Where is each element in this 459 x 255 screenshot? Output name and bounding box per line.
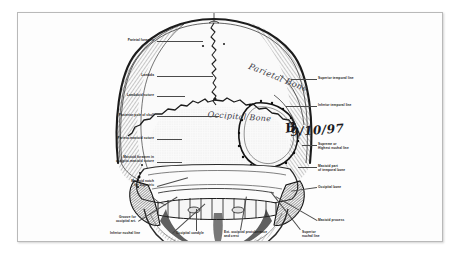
leader-supreme-nuchal-line — [302, 145, 317, 146]
leader-posterior-pole — [157, 116, 219, 117]
label-ext-occipital-protuberance: Ext. occipital protuberance and crest — [224, 231, 302, 239]
label-mastoid-notch: Mastoid notch for Digastric — [70, 180, 154, 188]
skull-illustration — [18, 13, 442, 241]
leader-lambda — [157, 76, 213, 77]
screenshot-root: Parietal Bone Occipital Bone B 9/10/97 P… — [0, 0, 459, 255]
leader-mastoid-foramen — [157, 162, 182, 163]
scanned-plate-frame: Parietal Bone Occipital Bone B 9/10/97 P… — [17, 12, 443, 242]
label-occipital-condyle: Occipital condyle — [176, 232, 224, 236]
label-parieto-mastoid-suture: Parieto-mastoid suture — [74, 137, 154, 141]
label-mastoid-foramen: Mastoid foramen in occipito-mastoid sutu… — [66, 156, 154, 164]
leader-superior-temporal-line — [291, 79, 317, 80]
label-inferior-temporal-line: Inferior temporal line — [318, 104, 396, 108]
label-mastoid-part-temporal: Mastoid part of temporal bone — [318, 165, 396, 173]
label-lambdoid-suture: Lambdoid suture — [82, 94, 154, 98]
skull-drawing-svg — [18, 13, 442, 241]
leader-mastoid-part-temporal — [298, 167, 317, 168]
leader-lambdoid-suture — [157, 96, 185, 97]
leader-inferior-temporal-line — [286, 106, 317, 107]
label-posterior-pole: Posterior pole of skull — [76, 114, 154, 118]
leader-occipital-condyle — [196, 209, 197, 231]
label-parietal-foramen: Parietal foramen — [90, 39, 154, 43]
leader-parieto-mastoid-suture — [157, 139, 182, 140]
label-occipital-bone: Occipital bone — [318, 186, 396, 190]
label-superior-temporal-line: Superior temporal line — [318, 77, 396, 81]
label-mastoid-process: Mastoid process — [318, 219, 396, 223]
leader-parietal-foramen — [157, 41, 203, 42]
label-lambda: Lambda — [90, 74, 154, 78]
label-groove-occipital-artery: Groove for occipital art. — [80, 216, 136, 224]
label-superior-nuchal-line: Superior nuchal line — [302, 231, 350, 239]
label-inferior-nuchal-line: Inferior nuchal line — [110, 232, 172, 236]
label-supreme-nuchal-line: Supreme or Highest nuchal line — [318, 143, 396, 151]
